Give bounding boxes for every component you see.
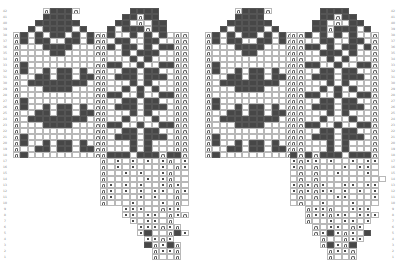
stitch-cell (279, 152, 286, 158)
stitch-cell (65, 152, 72, 158)
contrast-stitch-cell (20, 152, 27, 158)
row-number: 13 (388, 182, 398, 188)
row-number: 26 (0, 104, 10, 110)
row-number: 37 (0, 38, 10, 44)
row-number: 3 (388, 242, 398, 248)
row-number: 39 (0, 26, 10, 32)
stitch-cell (235, 152, 242, 158)
row-number: 11 (388, 194, 398, 200)
stitch-cell (249, 152, 256, 158)
stitch-cell (342, 254, 349, 260)
stitch-cell (181, 200, 188, 206)
stitch-cell (43, 152, 50, 158)
row-number: 14 (388, 176, 398, 182)
row-number: 41 (0, 14, 10, 20)
row-number: 34 (0, 56, 10, 62)
row-number: 19 (0, 146, 10, 152)
stitch-cell (227, 152, 234, 158)
row-number: 10 (388, 200, 398, 206)
stitch-cell (379, 176, 386, 182)
stitch-cell (220, 152, 227, 158)
row-number: 17 (388, 158, 398, 164)
row-number: 35 (0, 50, 10, 56)
arch-stitch-cell (100, 200, 107, 206)
row-number: 9 (388, 206, 398, 212)
contrast-stitch-cell (174, 230, 181, 236)
row-number: 4 (388, 236, 398, 242)
row-number: 39 (388, 26, 398, 32)
row-number: 11 (0, 194, 10, 200)
row-number: 7 (0, 218, 10, 224)
dot-stitch-cell (137, 230, 144, 236)
stitch-cell (272, 152, 279, 158)
stitch-cell (167, 254, 174, 260)
row-number: 27 (388, 98, 398, 104)
row-number: 25 (388, 110, 398, 116)
row-number: 10 (0, 200, 10, 206)
row-number: 12 (388, 188, 398, 194)
row-number: 24 (388, 116, 398, 122)
stitch-cell (87, 152, 94, 158)
row-number: 6 (388, 224, 398, 230)
row-number: 31 (388, 74, 398, 80)
row-number: 35 (388, 50, 398, 56)
row-number: 7 (388, 218, 398, 224)
row-number: 22 (388, 128, 398, 134)
contrast-stitch-cell (212, 152, 219, 158)
row-number: 16 (0, 164, 10, 170)
arch-stitch-cell (327, 254, 334, 260)
row-number: 12 (0, 188, 10, 194)
dot-stitch-cell (181, 230, 188, 236)
row-number: 23 (388, 122, 398, 128)
stitch-cell (371, 200, 378, 206)
arch-stitch-cell (181, 212, 188, 218)
row-number: 21 (388, 134, 398, 140)
row-number: 42 (0, 8, 10, 14)
row-number: 1 (0, 254, 10, 260)
arch-stitch-cell (349, 254, 356, 260)
stitch-cell (264, 152, 271, 158)
row-number: 26 (388, 104, 398, 110)
row-number: 40 (0, 20, 10, 26)
dot-stitch-cell (122, 212, 129, 218)
row-number: 18 (0, 152, 10, 158)
row-number: 8 (0, 212, 10, 218)
stitch-cell (257, 152, 264, 158)
stitch-cell (35, 152, 42, 158)
row-number: 41 (388, 14, 398, 20)
row-number: 31 (0, 74, 10, 80)
row-number: 15 (388, 170, 398, 176)
row-number: 13 (0, 182, 10, 188)
row-number: 15 (0, 170, 10, 176)
row-number: 5 (0, 230, 10, 236)
contrast-stitch-cell (364, 230, 371, 236)
dot-stitch-cell (130, 218, 137, 224)
row-number: 28 (388, 92, 398, 98)
row-number: 32 (388, 68, 398, 74)
row-number: 38 (388, 32, 398, 38)
arch-stitch-cell (264, 8, 271, 14)
row-number: 14 (0, 176, 10, 182)
row-number: 2 (388, 248, 398, 254)
row-number: 27 (0, 98, 10, 104)
row-number: 20 (0, 140, 10, 146)
row-number: 17 (0, 158, 10, 164)
dot-stitch-cell (371, 212, 378, 218)
row-number: 5 (388, 230, 398, 236)
row-number: 6 (0, 224, 10, 230)
row-number: 33 (388, 62, 398, 68)
dot-stitch-cell (364, 218, 371, 224)
arch-stitch-cell (312, 230, 319, 236)
row-number: 36 (388, 44, 398, 50)
arch-stitch-cell (205, 152, 212, 158)
arch-stitch-cell (174, 254, 181, 260)
row-number: 33 (0, 62, 10, 68)
row-number: 16 (388, 164, 398, 170)
row-number: 19 (388, 146, 398, 152)
stitch-cell (72, 152, 79, 158)
stitch-cell (107, 200, 114, 206)
stitch-cell (290, 200, 297, 206)
row-number: 2 (0, 248, 10, 254)
row-number: 28 (0, 92, 10, 98)
stitch-cell (80, 152, 87, 158)
